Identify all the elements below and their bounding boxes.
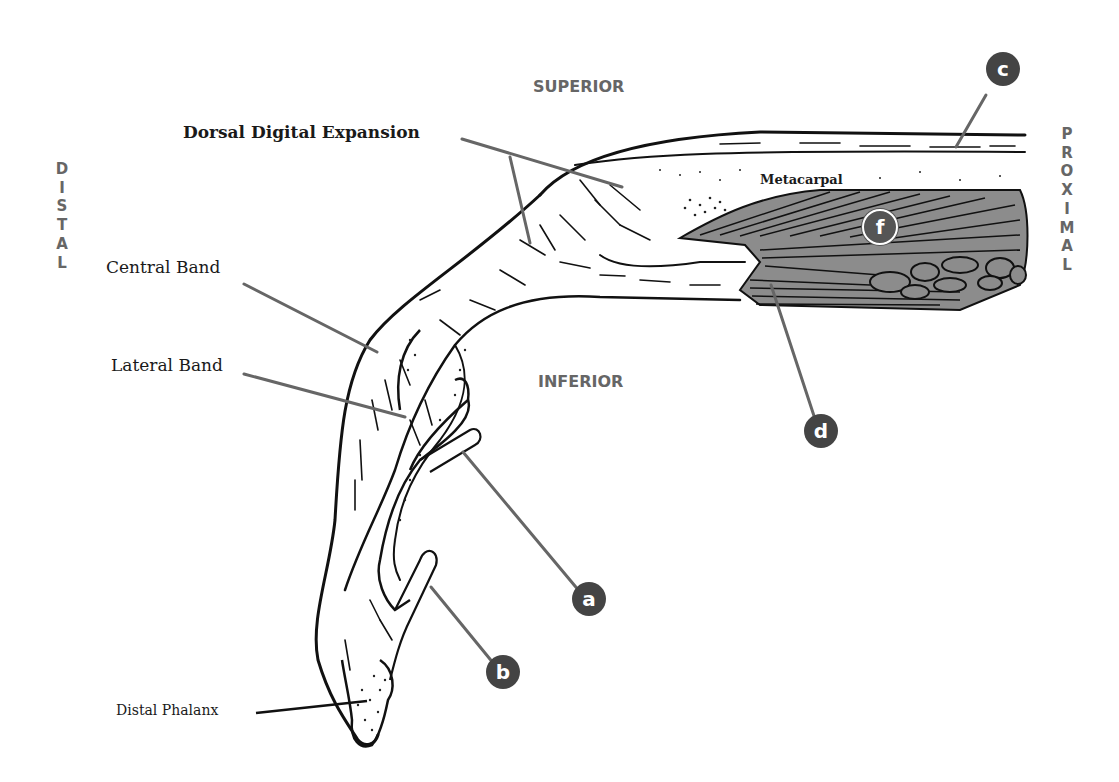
label-dorsal-digital-expansion: Dorsal Digital Expansion — [183, 122, 420, 142]
finger-extensor-mechanism-diagram: Dorsal Digital Expansion Central Band La… — [0, 0, 1119, 782]
direction-distal: D I S T A L — [52, 160, 72, 272]
phalanx-bones — [342, 330, 480, 746]
direction-inferior: INFERIOR — [538, 372, 623, 391]
leader-central-band — [244, 284, 377, 352]
label-central-band: Central Band — [106, 257, 220, 277]
marker-f: f — [862, 209, 898, 245]
leader-dorsal-digital-expansion — [462, 139, 622, 187]
leader-c — [956, 95, 986, 147]
leader-dorsal-digital-expansion-2 — [510, 157, 530, 243]
direction-superior: SUPERIOR — [533, 77, 624, 96]
marker-a: a — [572, 582, 606, 616]
leader-a — [463, 452, 580, 592]
marker-b: b — [486, 655, 520, 689]
direction-proximal: P R O X I M A L — [1057, 125, 1077, 275]
label-metacarpal: Metacarpal — [760, 172, 843, 187]
anatomy-illustration — [0, 0, 1119, 782]
marker-c: c — [986, 52, 1020, 86]
bone-stippling — [357, 339, 466, 731]
leader-b — [431, 587, 494, 664]
label-distal-phalanx: Distal Phalanx — [116, 702, 218, 718]
interosseous-muscles — [680, 190, 1028, 310]
leader-lateral-band — [244, 374, 405, 417]
marker-d: d — [804, 414, 838, 448]
label-lateral-band: Lateral Band — [111, 355, 223, 375]
